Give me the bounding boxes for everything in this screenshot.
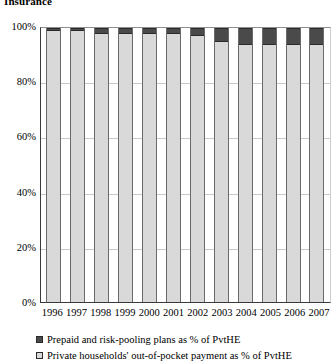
bar-2001[interactable] [166,28,181,302]
bar-segment-out-of-pocket[interactable] [191,36,204,302]
x-axis-tick-label: 2005 [258,307,282,318]
plot-area [40,27,331,303]
bar-segment-out-of-pocket[interactable] [71,31,84,302]
bar-2003[interactable] [214,28,229,302]
x-axis-tick-label: 2002 [186,307,210,318]
legend-label: Private households' out-of-pocket paymen… [47,350,292,361]
bar-segment-out-of-pocket[interactable] [310,45,323,302]
legend-label: Prepaid and risk-pooling plans as % of P… [47,334,240,345]
bar-segment-out-of-pocket[interactable] [239,45,252,302]
legend-item[interactable]: Prepaid and risk-pooling plans as % of P… [36,331,335,347]
bar-segment-out-of-pocket[interactable] [263,45,276,302]
bar-1996[interactable] [46,28,61,302]
bar-segment-out-of-pocket[interactable] [143,34,156,302]
bar-segment-out-of-pocket[interactable] [215,42,228,302]
y-axis-tick-label: 40% [0,187,36,198]
chart-legend: Prepaid and risk-pooling plans as % of P… [36,331,335,363]
x-axis: 1996199719981999200020012002200320042005… [40,307,331,318]
legend-swatch [36,336,43,343]
x-axis-tick-label: 1998 [89,307,113,318]
bar-2002[interactable] [190,28,205,302]
chart-title: Insurance [4,0,52,7]
bar-segment-out-of-pocket[interactable] [167,34,180,302]
x-axis-tick-label: 2000 [137,307,161,318]
x-axis-tick-label: 1996 [40,307,64,318]
bar-1998[interactable] [94,28,109,302]
bar-2005[interactable] [262,28,277,302]
legend-swatch [36,352,43,359]
bar-2006[interactable] [286,28,301,302]
bar-1999[interactable] [118,28,133,302]
y-axis-tick-label: 60% [0,131,36,142]
y-axis-tick-label: 20% [0,242,36,253]
x-axis-tick-label: 2001 [161,307,185,318]
bar-segment-prepaid[interactable] [215,28,228,42]
bar-segment-out-of-pocket[interactable] [47,31,60,302]
y-axis-tick-label: 0% [0,297,36,308]
x-axis-tick-label: 2006 [283,307,307,318]
bar-segment-prepaid[interactable] [287,28,300,45]
bar-1997[interactable] [70,28,85,302]
bar-segment-out-of-pocket[interactable] [287,45,300,302]
y-axis-tick-label: 100% [0,21,36,32]
bar-2007[interactable] [309,28,324,302]
bar-segment-prepaid[interactable] [239,28,252,45]
bar-2004[interactable] [238,28,253,302]
x-axis-tick-label: 2003 [210,307,234,318]
x-axis-tick-label: 2004 [234,307,258,318]
bar-segment-prepaid[interactable] [310,28,323,45]
y-axis-tick-label: 80% [0,76,36,87]
x-axis-tick-label: 1997 [64,307,88,318]
bar-segment-prepaid[interactable] [191,28,204,36]
bar-segment-prepaid[interactable] [263,28,276,45]
bar-2000[interactable] [142,28,157,302]
bar-segment-out-of-pocket[interactable] [95,34,108,302]
legend-item[interactable]: Private households' out-of-pocket paymen… [36,347,335,363]
x-axis-tick-label: 1999 [113,307,137,318]
bar-segment-out-of-pocket[interactable] [119,34,132,302]
bar-series-group [41,28,330,302]
x-axis-tick-label: 2007 [307,307,331,318]
y-axis: 0%20%40%60%80%100% [0,27,36,303]
